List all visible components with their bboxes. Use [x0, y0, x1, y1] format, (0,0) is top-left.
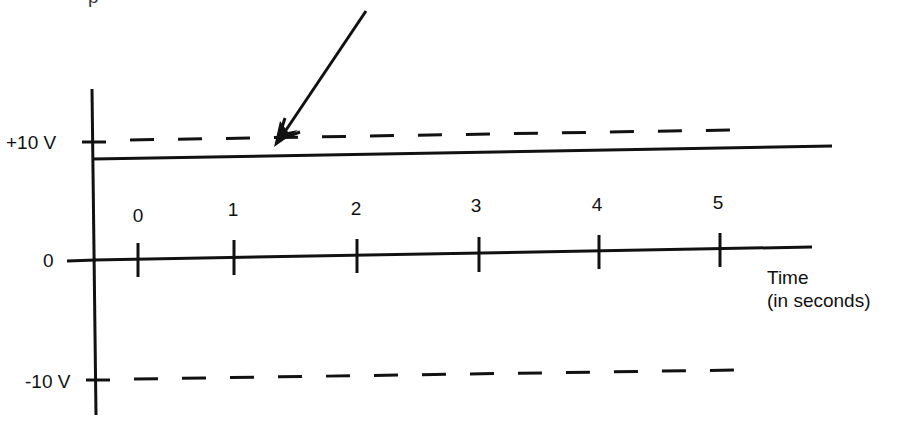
- x-tick-label-5: 5: [713, 193, 724, 212]
- x-tick-label-2: 2: [351, 199, 362, 218]
- y-label-plus10: +10 V: [6, 133, 56, 152]
- x-tick-label-3: 3: [471, 196, 482, 215]
- x-axis-title-line1: Time: [767, 266, 871, 289]
- signal-line: [93, 146, 832, 159]
- y-axis: [92, 89, 96, 415]
- x-tick-label-0: 0: [133, 206, 144, 225]
- plus10-dashed-line: [130, 130, 730, 140]
- x-axis-title: Time (in seconds): [767, 266, 871, 312]
- x-tick-label-4: 4: [592, 195, 603, 214]
- x-axis-title-line2: (in seconds): [767, 289, 871, 312]
- minus10-dashed-line: [134, 370, 735, 379]
- annotation-arrow: [274, 11, 366, 147]
- x-axis: [94, 247, 812, 260]
- x-tick-label-1: 1: [228, 200, 239, 219]
- voltage-time-figure: p +10 V 0 -10 V 0 1: [0, 0, 905, 422]
- y-label-zero: 0: [43, 251, 54, 270]
- y-tick-zero: [67, 260, 96, 261]
- y-label-minus10: -10 V: [25, 372, 70, 391]
